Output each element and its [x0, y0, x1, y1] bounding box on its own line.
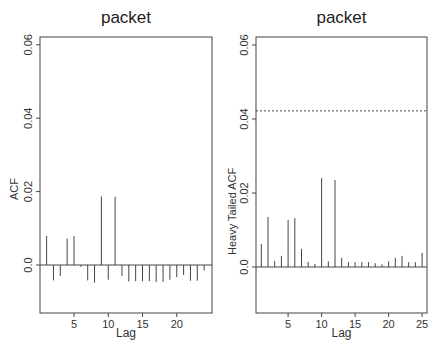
heavy-tailed-acf-plot: 0.00.020.040.06510152025 — [220, 0, 440, 354]
y-tick-label: 0.0 — [22, 257, 34, 272]
y-axis-label: ACF — [8, 178, 20, 200]
y-tick-label: 0.04 — [238, 108, 250, 129]
acf-panel: packet 0.00.020.040.065101520 Lag ACF — [0, 0, 220, 354]
heavy-tailed-acf-panel: packet 0.00.020.040.06510152025 Lag Heav… — [220, 0, 440, 354]
x-axis-label: Lag — [40, 326, 212, 340]
y-axis-label: Heavy Tailed ACF — [226, 168, 238, 255]
plot-frame — [40, 37, 212, 313]
x-axis-label: Lag — [256, 326, 427, 340]
y-tick-label: 0.0 — [238, 259, 250, 274]
acf-plot: 0.00.020.040.065101520 — [0, 0, 220, 354]
y-tick-label: 0.06 — [238, 34, 250, 55]
y-tick-label: 0.02 — [22, 181, 34, 202]
plot-frame — [256, 37, 427, 313]
y-tick-label: 0.02 — [238, 182, 250, 203]
y-tick-label: 0.04 — [22, 107, 34, 128]
y-tick-label: 0.06 — [22, 34, 34, 55]
